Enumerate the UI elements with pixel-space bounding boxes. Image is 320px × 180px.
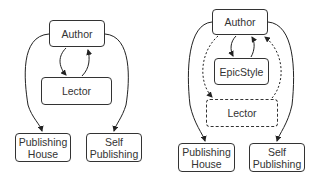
node-label: Lector [227,107,256,119]
node-label: Self Publishing [253,146,301,170]
edge-lector-to-author [82,50,89,76]
node-label: EpicStyle [220,66,264,78]
node-author-right: Author [212,9,268,35]
node-self-publishing-left: Self Publishing [86,133,142,162]
node-lector-right-optional: Lector [206,99,278,127]
node-publishing-house-left: Publishing House [15,133,71,162]
edge-author-to-epicstyle [231,36,236,56]
node-self-publishing-right: Self Publishing [249,143,305,172]
node-label: Lector [62,85,91,97]
edge-epicstyle-to-author [251,37,254,57]
node-label: Publishing House [182,146,230,170]
node-epicstyle: EpicStyle [214,58,269,85]
node-publishing-house-right: Publishing House [178,143,235,172]
node-author-left: Author [49,20,105,47]
edge-author-to-lector [60,48,66,75]
node-label: Author [62,28,93,40]
node-label: Publishing House [19,136,67,160]
node-label: Self Publishing [90,136,138,160]
node-lector-left: Lector [41,77,112,105]
node-label: Author [225,16,256,28]
